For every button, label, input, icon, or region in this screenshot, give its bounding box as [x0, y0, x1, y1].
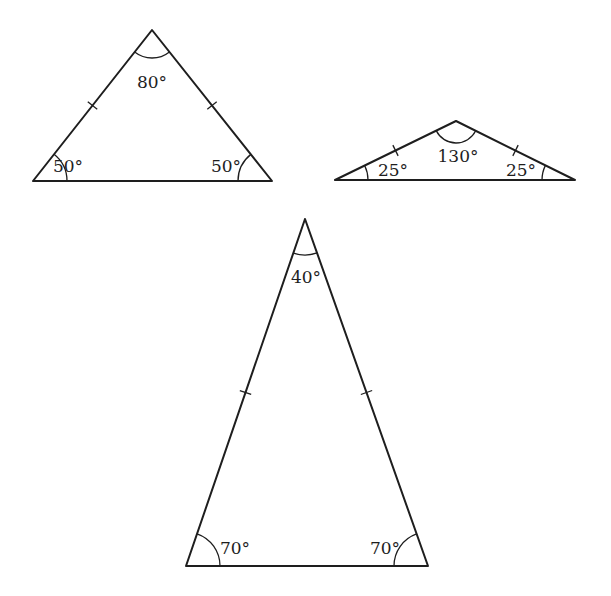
triangle-1: 80° 50° 50°	[33, 30, 272, 181]
triangle-3-right-angle-label: 70°	[370, 538, 400, 558]
triangle-3: 40° 70° 70°	[186, 219, 428, 566]
triangle-3-apex-angle-arc	[293, 253, 317, 255]
triangle-2-right-angle-label: 25°	[506, 160, 536, 180]
triangle-1-left-angle-label: 50°	[53, 156, 83, 176]
triangle-2-apex-angle-label: 130°	[438, 146, 479, 166]
triangle-1-apex-angle-label: 80°	[137, 72, 167, 92]
triangle-2-apex-angle-arc	[436, 131, 475, 143]
triangle-1-apex-angle-arc	[135, 52, 170, 58]
triangle-2-left-angle-label: 25°	[378, 160, 408, 180]
triangle-3-apex-angle-label: 40°	[291, 267, 321, 287]
triangle-2: 130° 25° 25°	[335, 121, 575, 180]
triangle-3-left-angle-arc	[197, 534, 220, 566]
triangle-3-left-angle-label: 70°	[220, 538, 250, 558]
triangle-2-right-angle-arc	[542, 165, 545, 180]
triangle-1-right-angle-label: 50°	[211, 156, 241, 176]
triangle-2-left-angle-arc	[365, 166, 368, 180]
isosceles-triangles-diagram: 80° 50° 50° 130° 25° 25° 40° 70° 70°	[0, 0, 611, 596]
